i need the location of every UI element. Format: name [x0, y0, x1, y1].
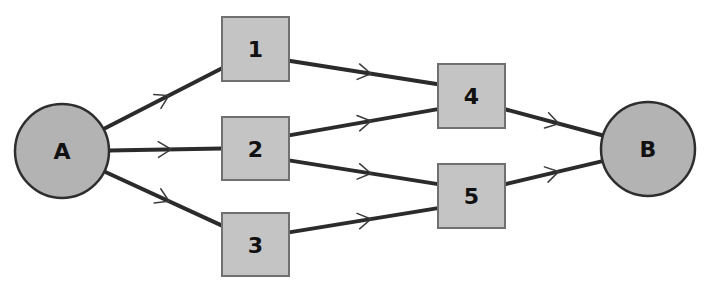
- edge-A-to-1: [104, 68, 222, 129]
- node-4: 4: [438, 64, 505, 128]
- node-1: 1: [222, 17, 289, 81]
- node-label: A: [53, 139, 70, 164]
- edge-A-to-3: [104, 171, 222, 225]
- node-2: 2: [222, 117, 289, 180]
- edge-3-to-5: [289, 208, 438, 232]
- edge-1-to-4: [289, 61, 438, 85]
- edges-layer: [104, 61, 603, 233]
- node-label: 2: [248, 137, 263, 162]
- node-label: 5: [464, 184, 479, 209]
- node-5: 5: [438, 164, 505, 228]
- edge-5-to-B: [505, 161, 603, 184]
- node-3: 3: [222, 213, 289, 276]
- edge-A-to-2: [109, 149, 222, 151]
- node-A: A: [15, 104, 109, 198]
- network-diagram: A12345B: [0, 0, 712, 295]
- edge-2-to-4: [289, 109, 438, 135]
- edge-2-to-5: [289, 160, 438, 184]
- node-label: 3: [248, 233, 263, 258]
- node-label: 4: [464, 84, 479, 109]
- edge-4-to-B: [505, 109, 603, 135]
- nodes-layer: A12345B: [15, 17, 695, 276]
- node-label: B: [640, 137, 657, 162]
- node-label: 1: [248, 37, 263, 62]
- node-B: B: [601, 102, 695, 196]
